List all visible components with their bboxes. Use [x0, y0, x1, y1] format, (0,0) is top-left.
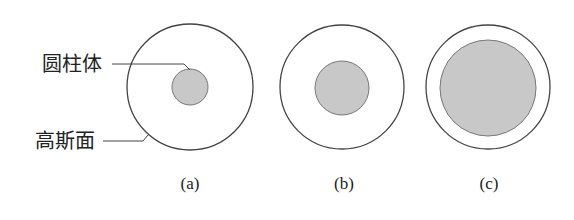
- gaussian-surface-leader-line: [103, 135, 148, 141]
- cylinder-circle-a: [172, 69, 208, 105]
- caption-a: (a): [181, 174, 200, 193]
- cylinder-leader-line: [112, 64, 190, 70]
- figure-b: (b): [280, 25, 404, 193]
- gaussian-surface-label: 高斯面: [35, 129, 95, 153]
- cylinder-circle-b: [315, 61, 369, 115]
- caption-b: (b): [334, 174, 354, 193]
- cylinder-label: 圆柱体: [42, 52, 102, 76]
- cylinder-circle-c: [440, 40, 536, 136]
- figure-a: (a): [127, 24, 253, 193]
- caption-c: (c): [480, 174, 499, 193]
- figure-c: (c): [426, 25, 550, 193]
- gauss-surface-diagram: (a) (b) (c) 圆柱体 高斯面: [0, 0, 574, 220]
